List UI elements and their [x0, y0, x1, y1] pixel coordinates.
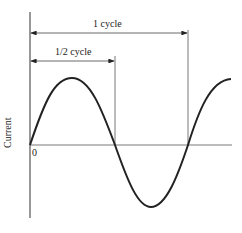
origin-label: 0 — [32, 147, 37, 158]
sine-wave-diagram — [0, 0, 242, 233]
full-cycle-label: 1 cycle — [93, 18, 122, 29]
sine-curve — [30, 78, 231, 207]
half-cycle-label: 1/2 cycle — [55, 46, 91, 57]
y-axis-label: Current — [2, 117, 13, 148]
